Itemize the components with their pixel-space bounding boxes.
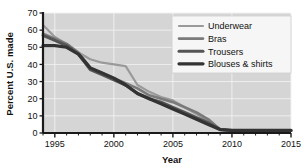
y-tick-label: 20 — [27, 94, 37, 104]
y-tick-label: 10 — [27, 111, 37, 121]
x-axis-title: Year — [162, 154, 182, 165]
x-tick-label: 2015 — [281, 139, 301, 149]
legend-label-1: Bras — [208, 34, 227, 44]
y-axis-tick-labels: 010203040506070 — [27, 8, 37, 138]
x-tick-label: 2005 — [163, 139, 183, 149]
x-axis-tick-labels: 19952000200520102015 — [45, 139, 301, 149]
y-tick-label: 70 — [27, 8, 37, 18]
x-tick-label: 1995 — [45, 139, 65, 149]
y-tick-label: 60 — [27, 25, 37, 35]
x-tick-label: 2010 — [222, 139, 242, 149]
legend-label-2: Trousers — [208, 47, 244, 57]
y-tick-label: 0 — [32, 128, 37, 138]
y-tick-label: 40 — [27, 60, 37, 70]
x-tick-label: 2000 — [104, 139, 124, 149]
y-tick-label: 30 — [27, 77, 37, 87]
y-axis-title: Percent U.S. made — [4, 32, 15, 115]
legend-label-3: Blouses & shirts — [208, 59, 273, 69]
y-tick-label: 50 — [27, 42, 37, 52]
chart-container: 010203040506070 19952000200520102015 Per… — [0, 0, 308, 168]
chart-legend: UnderwearBrasTrousersBlouses & shirts — [172, 16, 291, 73]
line-chart: 010203040506070 19952000200520102015 Per… — [0, 0, 308, 168]
legend-label-0: Underwear — [208, 21, 252, 31]
